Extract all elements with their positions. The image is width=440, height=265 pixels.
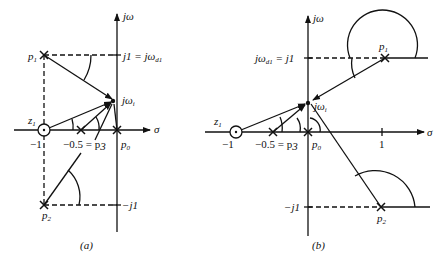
angle-arc-z1-a	[72, 119, 73, 130]
neg1-label-b: −1	[222, 138, 234, 150]
angle-arc-p0-b	[310, 118, 320, 132]
caption-b: (b)	[312, 239, 325, 252]
real-axis-label-b: σ	[427, 126, 433, 138]
one-label-b: 1	[379, 138, 385, 150]
vector-z1-a	[49, 102, 111, 128]
z1-label-b: z1	[213, 115, 222, 129]
p3-label-b: −0.5 = p3	[255, 138, 298, 152]
caption-a: (a)	[80, 239, 93, 252]
vector-z1-b	[241, 104, 305, 130]
p0-label-a: p0	[120, 138, 131, 152]
figure-b: jω σ p1	[205, 10, 433, 252]
angle-arc-p2-a	[68, 170, 80, 205]
angle-arc-p3-b	[297, 118, 300, 132]
angle-arc-p1-inner-b	[352, 58, 355, 78]
neg-j1-label-a: −j1	[122, 199, 138, 211]
p2-label-a: p2	[41, 209, 52, 223]
p0-label-b: p0	[311, 138, 322, 152]
figure-a: jω σ p1 z1 −1	[14, 10, 162, 252]
test-point-a	[111, 99, 115, 103]
vector-p1-a	[44, 55, 112, 99]
neg-j1-label-b: −j1	[284, 201, 300, 213]
p1-label-a: p1	[27, 50, 37, 64]
j1-label-b: jωd1 = j1	[253, 52, 294, 66]
vector-p1-b	[313, 58, 385, 100]
angle-arc-p1-a	[84, 55, 91, 80]
p3-label-a: −0.5 = p3	[63, 138, 106, 152]
real-axis-label-a: σ	[154, 123, 160, 135]
angle-arc-p3-a	[96, 117, 99, 130]
vector-p2-b	[311, 104, 381, 207]
jwi-label-b: jωi	[312, 100, 327, 114]
root-locus-diagram: jω σ p1 z1 −1	[0, 0, 440, 265]
imag-axis-label-a: jω	[121, 10, 134, 22]
p2-label-b: p2	[376, 212, 387, 226]
neg1-label-a: −1	[30, 138, 42, 150]
test-point-b	[306, 101, 310, 105]
jwi-label-a: jωi	[120, 94, 135, 108]
p1-label-b: p1	[378, 40, 388, 54]
angle-arc-p2-b	[355, 171, 415, 207]
imag-axis-label-b: jω	[311, 12, 324, 24]
j1-label-a: j1 = jωd1	[121, 50, 162, 64]
z1-label-a: z1	[27, 114, 36, 128]
